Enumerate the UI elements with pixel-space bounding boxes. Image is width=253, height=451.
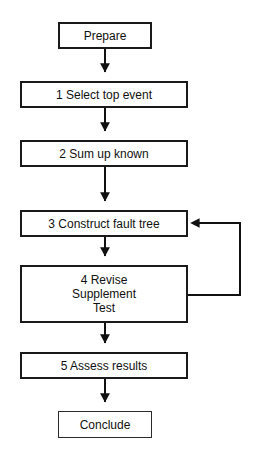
node-prepare[interactable]: Prepare: [58, 22, 152, 49]
node-step4-revise-supplement-test[interactable]: 4 Revise Supplement Test: [20, 265, 188, 323]
node-step1-select-top-event[interactable]: 1 Select top event: [20, 81, 188, 108]
node-step4-label: 4 Revise Supplement Test: [22, 273, 186, 315]
node-step1-label: 1 Select top event: [22, 88, 186, 102]
node-prepare-label: Prepare: [60, 29, 150, 43]
node-step2-sum-up-known[interactable]: 2 Sum up known: [20, 140, 188, 167]
node-step2-label: 2 Sum up known: [22, 147, 186, 161]
flowchart-diagram: Prepare 1 Select top event 2 Sum up know…: [0, 0, 253, 451]
connector-step4-feedback-to-step3: [188, 223, 240, 295]
node-step3-construct-fault-tree[interactable]: 3 Construct fault tree: [20, 210, 188, 237]
node-step3-label: 3 Construct fault tree: [22, 217, 186, 231]
node-conclude[interactable]: Conclude: [58, 411, 152, 438]
node-step5-assess-results[interactable]: 5 Assess results: [20, 352, 188, 379]
node-step5-label: 5 Assess results: [22, 359, 186, 373]
node-conclude-label: Conclude: [59, 418, 151, 432]
